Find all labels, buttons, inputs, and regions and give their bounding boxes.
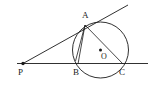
geometry-figure: A B C O P bbox=[0, 0, 153, 88]
vertex-label-p: P bbox=[18, 68, 23, 77]
vertex-label-a: A bbox=[82, 11, 89, 20]
tangent-line-through-A bbox=[23, 5, 128, 64]
vertex-label-b: B bbox=[73, 68, 79, 77]
point-marker-P bbox=[21, 62, 24, 65]
vertex-label-c: C bbox=[119, 68, 125, 77]
center-label-o: O bbox=[101, 53, 107, 61]
